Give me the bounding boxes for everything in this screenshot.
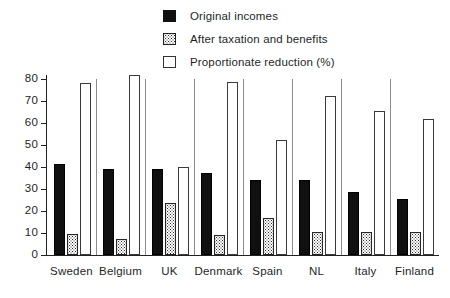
y-tick-label: 30 bbox=[12, 181, 38, 195]
legend-item-proportionate-reduction: Proportionate reduction (%) bbox=[163, 52, 433, 72]
bar-proportionate-reduction bbox=[423, 119, 435, 255]
bar-after-taxation-and-benefits bbox=[410, 232, 422, 255]
category-label-belgium: Belgium bbox=[96, 265, 145, 277]
bar-proportionate-reduction bbox=[276, 140, 288, 256]
legend-label: Proportionate reduction (%) bbox=[190, 56, 335, 68]
bar-after-taxation-and-benefits bbox=[165, 203, 177, 255]
bar-proportionate-reduction bbox=[227, 82, 239, 255]
bar-after-taxation-and-benefits bbox=[263, 218, 275, 255]
y-tick-label: 20 bbox=[12, 203, 38, 217]
bar-group-nl bbox=[292, 79, 341, 255]
bar-group-finland bbox=[390, 79, 439, 255]
bar-after-taxation-and-benefits bbox=[312, 232, 324, 255]
bar-after-taxation-and-benefits bbox=[67, 234, 79, 255]
y-tick-label: 80 bbox=[12, 71, 38, 85]
bar-proportionate-reduction bbox=[374, 111, 386, 255]
plot-area: 80706050403020100 SwedenBelgiumUKDenmark… bbox=[47, 79, 439, 255]
bar-proportionate-reduction bbox=[129, 75, 141, 255]
bar-original-incomes bbox=[348, 192, 360, 255]
legend-label: Original incomes bbox=[190, 10, 278, 22]
open-outline-swatch-icon bbox=[163, 56, 176, 68]
category-label-uk: UK bbox=[145, 265, 194, 277]
x-axis-line bbox=[46, 255, 439, 256]
category-label-sweden: Sweden bbox=[47, 265, 96, 277]
bar-group-spain bbox=[243, 79, 292, 255]
bar-original-incomes bbox=[397, 199, 409, 255]
y-tick-label: 40 bbox=[12, 159, 38, 173]
y-tick-label: 60 bbox=[12, 115, 38, 129]
solid-black-swatch-icon bbox=[163, 10, 176, 22]
y-tick-label: 10 bbox=[12, 225, 38, 239]
y-tick-label: 70 bbox=[12, 93, 38, 107]
bar-group-denmark bbox=[194, 79, 243, 255]
bar-original-incomes bbox=[299, 180, 311, 255]
category-label-nl: NL bbox=[292, 265, 341, 277]
y-tick-label: 50 bbox=[12, 137, 38, 151]
y-tick-mark bbox=[41, 255, 47, 256]
bar-after-taxation-and-benefits bbox=[116, 239, 128, 256]
bar-proportionate-reduction bbox=[178, 167, 190, 255]
bar-chart: Original incomes After taxation and bene… bbox=[0, 0, 450, 298]
bar-original-incomes bbox=[201, 173, 213, 256]
bar-original-incomes bbox=[152, 169, 164, 255]
bar-group-belgium bbox=[96, 79, 145, 255]
legend-item-original-incomes: Original incomes bbox=[163, 6, 433, 26]
bar-group-uk bbox=[145, 79, 194, 255]
bar-group-italy bbox=[341, 79, 390, 255]
chart-legend: Original incomes After taxation and bene… bbox=[163, 6, 433, 75]
category-label-finland: Finland bbox=[390, 265, 439, 277]
bar-original-incomes bbox=[103, 169, 115, 255]
bar-group-sweden bbox=[47, 79, 96, 255]
category-label-italy: Italy bbox=[341, 265, 390, 277]
bar-proportionate-reduction bbox=[80, 83, 92, 255]
bar-original-incomes bbox=[250, 180, 262, 255]
y-tick-label: 0 bbox=[12, 247, 38, 261]
bar-proportionate-reduction bbox=[325, 96, 337, 256]
legend-item-after-taxation-and-benefits: After taxation and benefits bbox=[163, 29, 433, 49]
bar-after-taxation-and-benefits bbox=[214, 235, 226, 255]
category-label-spain: Spain bbox=[243, 265, 292, 277]
legend-label: After taxation and benefits bbox=[190, 33, 328, 45]
bar-after-taxation-and-benefits bbox=[361, 232, 373, 255]
bar-original-incomes bbox=[54, 164, 66, 255]
stippled-swatch-icon bbox=[163, 33, 176, 45]
category-label-denmark: Denmark bbox=[194, 265, 243, 277]
